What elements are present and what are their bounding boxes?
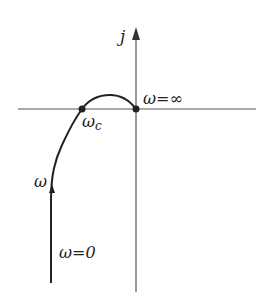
imag-axis-label: j xyxy=(116,26,126,46)
omega-c-label: ωc xyxy=(82,112,102,133)
imag-axis-arrow-icon xyxy=(132,27,140,40)
omega-infinity-label: ω=∞ xyxy=(143,89,183,108)
direction-arrow-icon xyxy=(49,184,55,193)
omega-c-main: ω xyxy=(82,112,95,131)
omega-infinity-point xyxy=(133,106,140,113)
omega-zero-label: ω=0 xyxy=(59,243,96,262)
omega-c-subscript: c xyxy=(95,119,102,133)
nyquist-diagram: j ω ω=0 ω=∞ ωc xyxy=(0,0,269,301)
omega-direction-label: ω xyxy=(34,172,47,191)
